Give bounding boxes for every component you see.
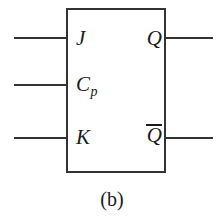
pin-label-q-bar-text: Q bbox=[147, 123, 162, 147]
pin-label-q: Q bbox=[147, 28, 162, 49]
input-wire-j bbox=[14, 37, 68, 39]
pin-label-j-text: J bbox=[76, 26, 85, 50]
pin-label-cp-text: C bbox=[76, 72, 90, 96]
output-wire-q bbox=[164, 37, 213, 39]
output-wire-q-bar bbox=[164, 137, 213, 139]
pin-label-k-text: K bbox=[76, 125, 90, 149]
figure-caption: (b) bbox=[0, 188, 224, 211]
pin-label-k: K bbox=[76, 127, 90, 148]
input-wire-cp bbox=[14, 84, 68, 86]
pin-label-q-text: Q bbox=[147, 26, 162, 50]
pin-label-j: J bbox=[76, 28, 85, 49]
pin-label-cp-subscript: p bbox=[91, 84, 98, 99]
overbar-icon: Q bbox=[147, 124, 162, 146]
figure-jk-flip-flop: J Cp K Q Q (b) bbox=[0, 0, 224, 222]
input-wire-k bbox=[14, 137, 68, 139]
pin-label-cp: Cp bbox=[76, 74, 98, 99]
pin-label-q-bar: Q bbox=[147, 124, 162, 146]
